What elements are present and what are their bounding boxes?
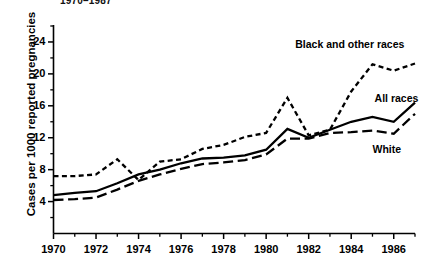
axes — [48, 25, 415, 239]
plot-area — [0, 0, 421, 273]
series-line-0 — [54, 64, 416, 181]
data-series — [54, 64, 416, 200]
series-line-1 — [54, 103, 416, 196]
chart-figure: 1970–1987 Cases per 1000 reported pregna… — [0, 0, 421, 273]
